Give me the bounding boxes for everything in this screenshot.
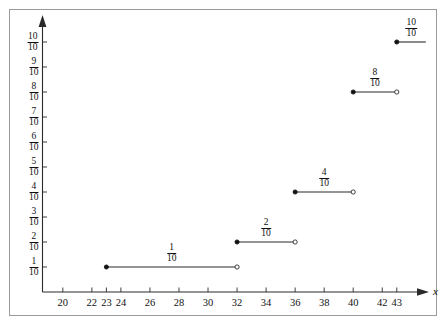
x-tick-label: 24 [116,297,127,308]
fraction-numerator: 9 [29,57,39,68]
fraction-numerator: 4 [319,168,329,179]
x-tick-label: 22 [87,297,98,308]
fraction-denominator: 10 [29,193,39,203]
x-tick-label: 32 [232,297,243,308]
x-axis-label: x [433,285,438,297]
fraction-denominator: 10 [167,254,177,264]
fraction-numerator: 8 [370,68,380,79]
fraction-denominator: 10 [29,118,39,128]
x-tick-label: 34 [261,297,272,308]
fraction-numerator: 10 [406,18,418,29]
step-value-label: 210 [261,218,271,238]
fraction-denominator: 10 [29,68,39,78]
fraction-denominator: 10 [370,79,380,89]
step-open-endpoint [351,190,355,194]
y-axis-arrowhead [39,15,47,27]
x-tick-label: 30 [203,297,214,308]
fraction-numerator: 4 [29,182,39,193]
x-tick-label: 40 [348,297,359,308]
fraction-numerator: 10 [27,32,39,43]
step-closed-endpoint [395,40,399,44]
fraction-denominator: 10 [261,229,271,239]
x-tick-label: 43 [392,297,403,308]
fraction-numerator: 7 [29,107,39,118]
x-tick-label: 36 [290,297,301,308]
step-value-label: 1010 [406,18,418,38]
x-tick-label: 20 [58,297,69,308]
y-tick-label: 810 [29,82,39,102]
step-chart-svg [0,0,447,326]
step-value-label: 110 [167,243,177,263]
fraction-denominator: 10 [29,218,39,228]
x-tick-label: 28 [174,297,185,308]
fraction-numerator: 2 [29,232,39,243]
x-axis-arrowhead [417,288,429,296]
fraction-numerator: 1 [29,257,39,268]
y-tick-label: 410 [29,182,39,202]
fraction-denominator: 10 [29,143,39,153]
fraction-denominator: 10 [29,268,39,278]
y-tick-label: 910 [29,57,39,77]
fraction-numerator: 2 [261,218,271,229]
y-tick-label: 310 [29,207,39,227]
x-tick-label: 26 [145,297,156,308]
step-open-endpoint [235,265,239,269]
step-closed-endpoint [104,265,108,269]
fraction-denominator: 10 [27,43,39,53]
fraction-denominator: 10 [29,93,39,103]
step-open-endpoint [293,240,297,244]
y-tick-label: 510 [29,157,39,177]
x-tick-label: 38 [319,297,330,308]
fraction-numerator: 5 [29,157,39,168]
step-closed-endpoint [351,90,355,94]
x-tick-label: 23 [101,297,112,308]
fraction-numerator: 8 [29,82,39,93]
x-tick-label: 42 [377,297,388,308]
fraction-denominator: 10 [29,168,39,178]
tick-marks [43,42,397,292]
step-value-label: 410 [319,168,329,188]
y-tick-label: 110 [29,257,39,277]
step-value-label: 810 [370,68,380,88]
figure-container: 1102103104105106107108109101010 20222324… [0,0,447,326]
step-open-endpoint [395,90,399,94]
fraction-denominator: 10 [406,29,418,39]
fraction-denominator: 10 [29,243,39,253]
y-tick-label: 210 [29,232,39,252]
y-tick-label: 710 [29,107,39,127]
fraction-denominator: 10 [319,179,329,189]
step-closed-endpoint [235,240,239,244]
step-closed-endpoint [293,190,297,194]
fraction-numerator: 3 [29,207,39,218]
y-tick-label: 1010 [27,32,39,52]
y-tick-label: 610 [29,132,39,152]
fraction-numerator: 6 [29,132,39,143]
fraction-numerator: 1 [167,243,177,254]
axis-lines [39,15,429,296]
